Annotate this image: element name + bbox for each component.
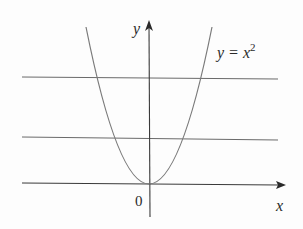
diagram-svg: y y = x2 0 x (0, 0, 303, 229)
origin-label: 0 (135, 193, 143, 209)
y-axis-label: y (131, 20, 141, 38)
x-axis-label: x (275, 197, 283, 214)
curve-label: y = x2 (215, 41, 256, 62)
upper-horizontal-line (22, 77, 278, 79)
parabola-diagram: y y = x2 0 x (0, 0, 303, 229)
y-axis (149, 26, 150, 217)
